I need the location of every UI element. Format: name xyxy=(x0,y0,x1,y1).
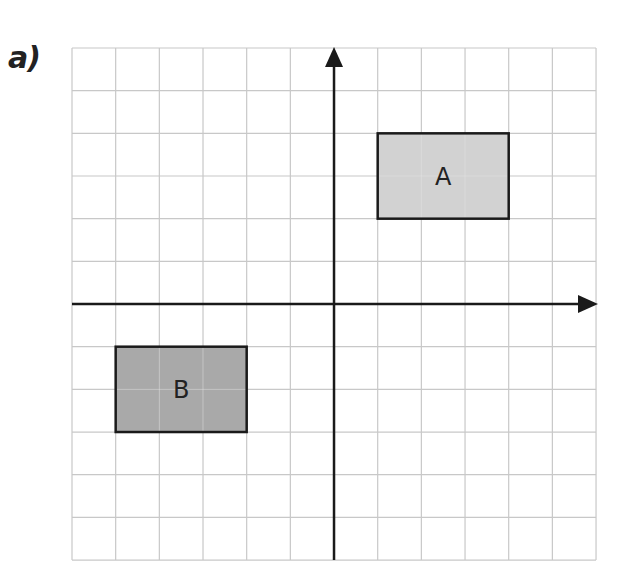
y-axis-arrow-icon xyxy=(325,47,343,67)
x-axis-arrow-icon xyxy=(578,295,598,313)
rectangle-a: A xyxy=(378,133,509,218)
shape-label: A xyxy=(435,163,452,191)
axes xyxy=(72,47,598,560)
coordinate-grid: AB xyxy=(0,0,621,585)
shapes: AB xyxy=(116,133,509,432)
rectangle-b: B xyxy=(116,347,247,432)
shape-label: B xyxy=(173,376,189,404)
